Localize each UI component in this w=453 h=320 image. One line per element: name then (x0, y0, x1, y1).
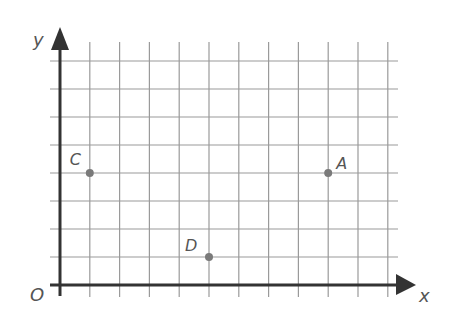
point-a (324, 169, 332, 177)
y-axis-label: y (32, 29, 44, 50)
point-c (86, 169, 94, 177)
point-label-c: C (70, 150, 82, 169)
y-axis-arrow-icon (51, 27, 69, 50)
x-axis-label: x (418, 285, 430, 306)
point-label-d: D (185, 236, 197, 255)
x-axis-arrow-icon (396, 274, 416, 295)
point-d (205, 253, 213, 261)
coordinate-grid-diagram: x y O ACD (0, 0, 453, 320)
origin-label: O (30, 284, 44, 305)
point-label-a: A (335, 154, 347, 173)
